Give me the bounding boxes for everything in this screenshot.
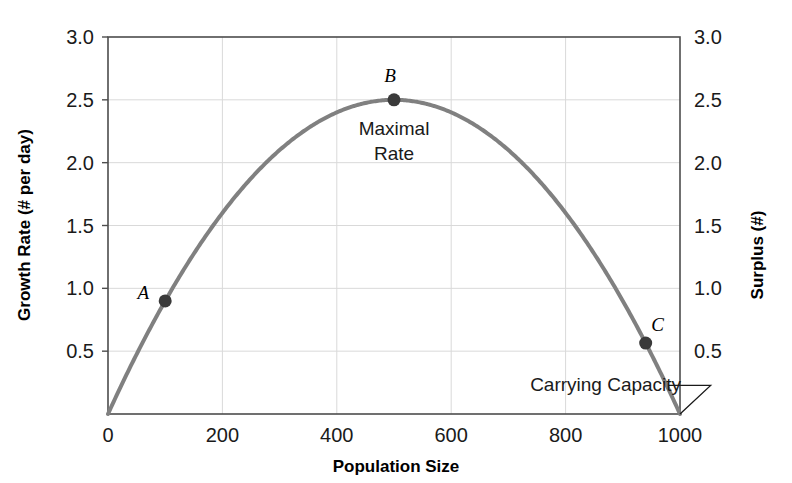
y2-tick-label: 1.0 [694,277,722,299]
chart-background [0,0,792,483]
x-tick-label: 600 [435,424,468,446]
y2-tick-label: 1.5 [694,215,722,237]
y2-axis-title: Surplus (#) [748,211,767,300]
x-tick-label: 800 [549,424,582,446]
data-point-label-c: C [651,314,664,335]
y-tick-label: 1.0 [66,277,94,299]
x-tick-label: 0 [102,424,113,446]
x-tick-label: 1000 [658,424,703,446]
y-tick-label: 2.0 [66,152,94,174]
y-axis-title: Growth Rate (# per day) [15,129,34,321]
y2-tick-label: 2.5 [694,89,722,111]
y-tick-label: 0.5 [66,340,94,362]
data-point-label-b: B [384,65,396,86]
y-tick-label: 1.5 [66,215,94,237]
carrying-capacity-label: Carrying Capacity [530,374,681,395]
x-tick-label: 200 [206,424,239,446]
y2-tick-label: 2.0 [694,152,722,174]
y-tick-label: 3.0 [66,26,94,48]
growth-rate-chart: MaximalRateCarrying Capacity ABC 0200400… [0,0,792,483]
chart-container: MaximalRateCarrying Capacity ABC 0200400… [0,0,792,483]
x-tick-label: 400 [320,424,353,446]
y2-tick-label: 0.5 [694,340,722,362]
y2-tick-label: 3.0 [694,26,722,48]
data-point-label-a: A [135,282,149,303]
data-point-a [159,294,172,307]
maximal-rate-label-line1: Maximal [359,118,430,139]
data-point-c [639,337,652,350]
y-tick-label: 2.5 [66,89,94,111]
data-point-b [388,93,401,106]
maximal-rate-label-line2: Rate [374,143,414,164]
x-axis-title: Population Size [333,457,460,476]
